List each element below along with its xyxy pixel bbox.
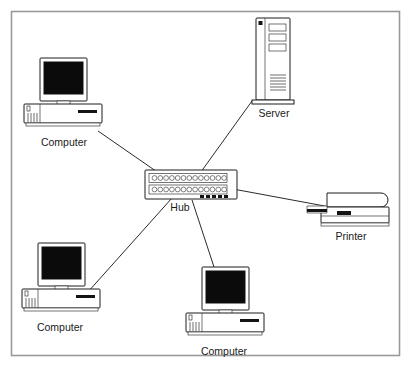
link-hub-server xyxy=(198,101,252,176)
node-computer-bottom-left[interactable]: Computer xyxy=(22,243,100,333)
link-hub-computer-bottom-left xyxy=(87,198,172,293)
node-hub[interactable]: Hub xyxy=(145,170,237,213)
node-label-computer-bottom-center: Computer xyxy=(201,345,248,357)
node-computer-top-left[interactable]: Computer xyxy=(24,58,102,148)
node-label-computer-bottom-left: Computer xyxy=(37,321,84,333)
node-label-computer-top-left: Computer xyxy=(41,136,88,148)
link-hub-computer-bottom-center xyxy=(192,200,215,270)
link-hub-computer-top-left xyxy=(98,131,163,176)
node-computer-bottom-center[interactable]: Computer xyxy=(186,267,264,357)
node-label-hub: Hub xyxy=(170,201,189,213)
node-label-server: Server xyxy=(259,107,290,119)
network-topology-diagram: Computer Server xyxy=(0,0,411,371)
node-server[interactable]: Server xyxy=(252,18,294,119)
diagram-canvas: Computer Server xyxy=(0,0,411,371)
link-hub-printer xyxy=(233,189,330,207)
node-label-printer: Printer xyxy=(336,230,367,242)
node-printer[interactable]: Printer xyxy=(307,193,389,242)
